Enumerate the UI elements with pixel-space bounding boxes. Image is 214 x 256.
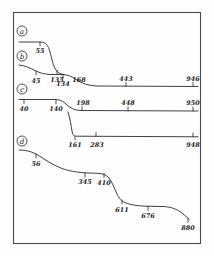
annotation-d-611: 611	[115, 206, 129, 214]
annotation-ctail-948: 948	[186, 141, 200, 149]
curve-b-path	[19, 65, 198, 87]
annotation-ctail-161: 161	[68, 141, 82, 149]
curve-label-b: b	[17, 51, 27, 61]
curve-label-d-text: d	[20, 137, 25, 146]
annotation-b-443: 443	[119, 75, 133, 83]
annotation-c-950: 950	[186, 99, 200, 107]
curve-b-group	[19, 65, 198, 87]
annotation-c-40: 40	[19, 105, 29, 113]
figure-svg: a b c d 55 135 45 134 168 443 946 40 140…	[0, 0, 214, 256]
annotation-b-134: 134	[56, 80, 70, 88]
annotation-d-56: 56	[31, 160, 41, 168]
curve-c-path	[19, 100, 198, 112]
curve-label-a: a	[17, 26, 27, 36]
annotation-c-448: 448	[121, 99, 135, 107]
annotation-d-410: 410	[97, 179, 111, 187]
curve-c-group	[19, 100, 198, 112]
annotation-c-140: 140	[49, 105, 63, 113]
annotation-d-676: 676	[141, 212, 155, 220]
curve-label-c: c	[17, 84, 27, 94]
figure-container: a b c d 55 135 45 134 168 443 946 40 140…	[0, 0, 214, 256]
annotation-b-168: 168	[72, 76, 86, 84]
curve-c-tail-group	[68, 112, 198, 140]
curve-label-b-text: b	[20, 52, 25, 61]
curve-label-c-text: c	[20, 85, 24, 94]
annotation-b-946: 946	[186, 75, 200, 83]
curve-c-tail-path	[68, 112, 198, 137]
annotation-d-880: 880	[181, 224, 195, 232]
annotation-ctail-283: 283	[89, 141, 104, 149]
curve-label-d: d	[17, 136, 27, 146]
annotation-c-198: 198	[76, 99, 90, 107]
annotation-d-345: 345	[78, 178, 92, 186]
annotation-a-55: 55	[35, 47, 45, 55]
curve-label-a-text: a	[20, 27, 24, 36]
annotation-b-45: 45	[31, 77, 41, 85]
